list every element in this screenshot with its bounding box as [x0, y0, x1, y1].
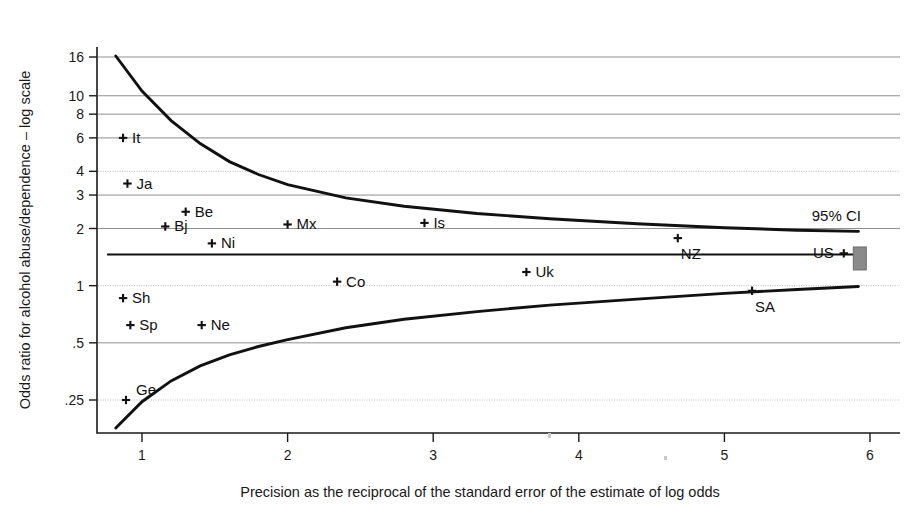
y-tick-label-0p5: .5 [72, 335, 84, 351]
point-label-NZ: NZ [681, 245, 701, 262]
us-study-weight-box [853, 247, 866, 270]
funnel-plot-svg: ItJaBeBjNiMxIsNZUSUkCoShSASpNeGe .25.512… [0, 0, 917, 529]
x-tick-label-4: 4 [575, 447, 583, 463]
point-label-Ja: Ja [136, 175, 153, 192]
y-axis-title: Odds ratio for alcohol abuse/dependence … [17, 71, 33, 410]
point-label-Uk: Uk [535, 263, 554, 280]
funnel-plot-figure: ItJaBeBjNiMxIsNZUSUkCoShSASpNeGe .25.512… [0, 0, 917, 529]
point-label-Is: Is [433, 214, 445, 231]
point-label-Ni: Ni [221, 234, 235, 251]
x-axis-title: Precision as the reciprocal of the stand… [240, 484, 720, 500]
point-label-Mx: Mx [297, 215, 317, 232]
point-label-Sp: Sp [139, 316, 157, 333]
y-tick-label-3: 3 [76, 187, 84, 203]
y-tick-label-10: 10 [68, 88, 84, 104]
x-tick-label-2: 2 [284, 447, 292, 463]
point-label-Sh: Sh [132, 289, 150, 306]
y-tick-label-4: 4 [76, 163, 84, 179]
x-tick-label-1: 1 [138, 447, 146, 463]
y-tick-label-2: 2 [76, 221, 84, 237]
point-label-SA: SA [755, 298, 775, 315]
annotation-95-ci: 95% CI [812, 207, 861, 224]
x-tick-label-3: 3 [429, 447, 437, 463]
x-tick-label-6: 6 [866, 447, 874, 463]
y-tick-label-0p25: .25 [65, 392, 85, 408]
point-label-US: US [813, 244, 834, 261]
y-tick-label-1: 1 [76, 278, 84, 294]
point-label-Ge: Ge [136, 381, 156, 398]
y-tick-label-6: 6 [76, 130, 84, 146]
x-tick-label-5: 5 [721, 447, 729, 463]
point-label-Bj: Bj [174, 217, 187, 234]
point-label-Ne: Ne [211, 316, 230, 333]
point-label-Be: Be [195, 203, 213, 220]
y-tick-label-16: 16 [68, 49, 84, 65]
y-tick-label-8: 8 [76, 106, 84, 122]
point-label-Co: Co [346, 273, 365, 290]
point-label-It: It [132, 129, 141, 146]
